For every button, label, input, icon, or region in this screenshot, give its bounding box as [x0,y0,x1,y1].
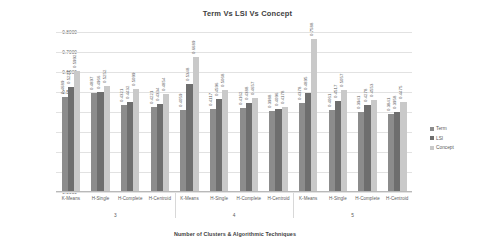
bar-value-label: 0.4895 [303,77,308,90]
x-axis-category-label: K-Means [175,196,205,208]
x-axis-category-label: H-Centroid [264,196,294,208]
x-axis-group-label: 5 [293,213,412,223]
bar-value-label: 0.4162 [238,91,243,104]
bar-value-label: 0.5057 [339,73,344,86]
bar-value-label: 0.4096 [274,93,279,106]
bar-value-label: 0.4061 [327,93,332,106]
legend-swatch-icon [430,136,434,140]
bar-value-label: 0.4966 [96,75,101,88]
x-axis-category-label: H-Single [86,196,116,208]
bar-value-label: 0.6689 [191,41,196,54]
bar-value-label: 0.4432 [125,86,130,99]
bar[interactable]: 0.5252 [104,86,110,191]
x-axis-category-label: H-Centroid [145,196,175,208]
legend-label: Term [436,126,447,131]
bar-value-label: 0.4278 [363,89,368,102]
bar-group: 0.48970.49660.5252 [86,32,116,191]
bar-group: 0.41170.45960.5068 [204,32,234,191]
bar-value-label: 0.4117 [208,93,213,106]
chart-legend: TermLSIConcept [430,126,490,155]
bar-value-label: 0.5992 [72,55,77,68]
bar-value-label: 0.5348 [185,68,190,81]
bar-value-label: 0.4854 [161,77,166,90]
chart-container: Term Vs LSI Vs Concept Euclidean Distanc… [0,0,495,251]
bar[interactable]: 0.4553 [371,100,377,191]
bar[interactable]: 0.5057 [341,90,347,191]
bar-group: 0.43780.48950.7588 [293,32,323,191]
bar-value-label: 0.4321 [119,88,124,101]
legend-item[interactable]: Term [430,126,490,131]
bar-value-label: 0.4378 [297,87,302,100]
bar-value-label: 0.4221 [149,90,154,103]
bar-value-label: 0.5068 [220,73,225,86]
x-axis-group-label: 3 [56,213,175,223]
bar-group: 0.41620.43880.4657 [234,32,264,191]
bar-value-label: 0.3988 [267,95,272,108]
bar[interactable]: 0.4657 [252,98,258,191]
bar[interactable]: 0.5992 [74,71,80,191]
bar-value-label: 0.4553 [369,84,374,97]
bar[interactable]: 0.5068 [222,90,228,191]
legend-item[interactable]: LSI [430,136,490,141]
bar-group: 0.39880.40960.4178 [264,32,294,191]
bar[interactable]: 0.7588 [311,39,317,191]
bar-group: 0.43210.44320.5099 [115,32,145,191]
bar-value-label: 0.3841 [386,98,391,111]
legend-item[interactable]: Concept [430,145,490,150]
bar-value-label: 0.4475 [398,85,403,98]
bar-value-label: 0.4178 [280,91,285,104]
bar-value-label: 0.4059 [178,93,183,106]
bar[interactable]: 0.4475 [400,102,406,192]
bar-value-label: 0.5221 [66,70,71,83]
x-axis-group-label: 4 [175,213,294,223]
bar-value-label: 0.3958 [392,95,397,108]
bar-value-label: 0.4689 [60,81,65,94]
bar-value-label: 0.4657 [250,81,255,94]
legend-label: LSI [436,136,443,141]
bar-groups: 0.46890.52210.59920.48970.49660.52520.43… [56,32,412,191]
bar-value-label: 0.4517 [333,84,338,97]
bar[interactable]: 0.4854 [163,94,169,191]
bar-value-label: 0.4897 [89,77,94,90]
bar-value-label: 0.4334 [155,88,160,101]
bar-value-label: 0.5099 [131,73,136,86]
x-axis-category-label: H-Single [323,196,353,208]
x-axis-category-label: H-Complete [353,196,383,208]
bar-value-label: 0.7588 [309,23,314,36]
bar[interactable]: 0.6689 [193,57,199,191]
x-axis-category-label: H-Centroid [382,196,412,208]
bar-group: 0.46890.52210.5992 [56,32,86,191]
bar-value-label: 0.4596 [214,83,219,96]
x-axis-category-labels: K-MeansH-SingleH-CompleteH-CentroidK-Mea… [56,196,412,208]
x-axis-title: Number of Clusters & Algorithmic Techniq… [0,231,470,237]
bar[interactable]: 0.4178 [282,107,288,191]
x-axis-category-label: H-Single [204,196,234,208]
x-axis-line [56,191,412,192]
plot-area: 0.46890.52210.59920.48970.49660.52520.43… [56,32,412,192]
bar-value-label: 0.4388 [244,87,249,100]
x-axis-category-label: H-Complete [115,196,145,208]
bar-group: 0.42210.43340.4854 [145,32,175,191]
x-axis-category-label: H-Complete [234,196,264,208]
chart-title: Term Vs LSI Vs Concept [0,9,495,18]
x-axis-category-label: K-Means [293,196,323,208]
x-axis-group-labels: 345 [56,213,412,223]
legend-swatch-icon [430,127,434,131]
bar[interactable]: 0.5099 [133,89,139,191]
bar-value-label: 0.5252 [102,70,107,83]
bar-value-label: 0.3941 [356,96,361,109]
legend-swatch-icon [430,146,434,150]
bar-group: 0.40590.53480.6689 [175,32,205,191]
bar-group: 0.40610.45170.5057 [323,32,353,191]
bar-group: 0.39410.42780.4553 [353,32,383,191]
bar-group: 0.38410.39580.4475 [382,32,412,191]
x-axis-category-label: K-Means [56,196,86,208]
legend-label: Concept [436,145,454,150]
